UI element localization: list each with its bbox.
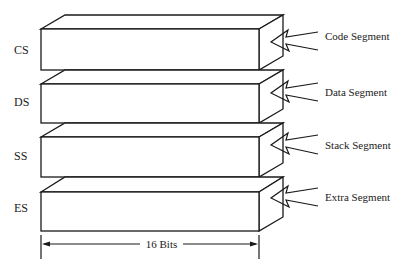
segment-box-cs bbox=[41, 15, 283, 70]
arrowhead-left-icon bbox=[42, 242, 50, 247]
segment-label-stack: Stack Segment bbox=[325, 139, 391, 151]
segment-registers-diagram: CS DS SS ES Code Segment Data Segment St… bbox=[0, 0, 404, 273]
segment-box-ss bbox=[41, 123, 283, 177]
width-label: 16 Bits bbox=[146, 238, 177, 250]
register-label-ds: DS bbox=[14, 95, 29, 109]
arrowhead-right-icon bbox=[250, 242, 258, 247]
register-label-ss: SS bbox=[14, 149, 27, 163]
segment-label-extra: Extra Segment bbox=[325, 191, 390, 203]
segment-label-code: Code Segment bbox=[325, 30, 389, 42]
segment-box-ds bbox=[41, 70, 283, 123]
segment-box-es bbox=[41, 177, 283, 231]
register-label-es: ES bbox=[14, 201, 28, 215]
segment-label-data: Data Segment bbox=[325, 86, 387, 98]
register-label-cs: CS bbox=[14, 43, 29, 57]
